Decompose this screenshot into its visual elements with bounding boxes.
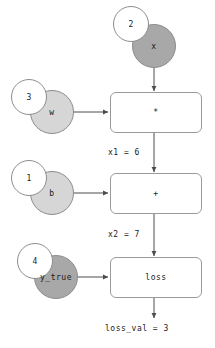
node-y-true-label: y_true [40,273,72,282]
op-box-loss-label: loss [145,273,166,282]
node-x-value: 2 [129,20,134,29]
node-y-true-value: 4 [33,257,38,266]
op-box-add[interactable]: + [110,173,202,214]
op-box-multiply[interactable]: * [110,92,202,133]
edge-label-x1: x1 = 6 [108,148,140,157]
node-w-value-circle[interactable]: 3 [11,79,47,115]
op-box-multiply-label: * [153,108,158,117]
node-b-value-circle[interactable]: 1 [11,160,47,196]
computational-graph-canvas: x 2 w 3 b 1 y_true 4 * + loss x1 = [0,0,215,348]
output-label-loss-val: loss_val = 3 [105,324,169,333]
node-b-label: b [49,189,54,198]
node-b-value: 1 [27,174,32,183]
node-x-label: x [151,42,156,51]
op-box-loss[interactable]: loss [110,257,202,298]
node-w-label: w [49,108,54,117]
edge-label-x2: x2 = 7 [108,230,140,239]
node-w-value: 3 [27,93,32,102]
op-box-add-label: + [153,189,158,198]
node-x-value-circle[interactable]: 2 [113,6,149,42]
